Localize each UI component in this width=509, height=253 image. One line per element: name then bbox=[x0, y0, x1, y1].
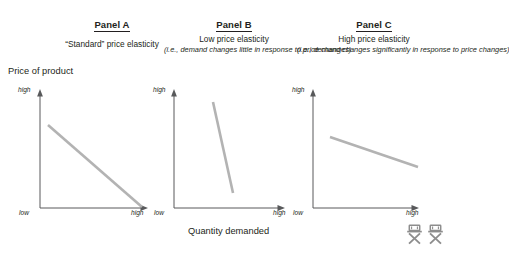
panel-c-x-low-tick: low bbox=[293, 209, 303, 216]
panel-b-x-low-tick: low bbox=[154, 209, 164, 216]
panel-a-x-axis bbox=[40, 205, 148, 211]
panel-c-subtitle-text: High price elasticity bbox=[338, 34, 409, 44]
panel-a-y-axis bbox=[37, 89, 43, 208]
panel-b-svg bbox=[164, 84, 300, 214]
panel-b-y-axis bbox=[171, 89, 177, 208]
panel-a-title: Panel A bbox=[52, 19, 172, 30]
bowtie-glyph-left-icon bbox=[405, 224, 424, 246]
panel-c-x-axis bbox=[313, 205, 419, 211]
panel-c-title-text: Panel C bbox=[356, 19, 392, 32]
panel-a-x-low-tick: low bbox=[19, 209, 29, 216]
bowtie-glyph-right-icon bbox=[426, 224, 445, 246]
panel-c-demand-curve bbox=[330, 137, 418, 167]
panel-b-plot bbox=[164, 84, 300, 214]
panel-a-y-high-tick: high bbox=[18, 86, 30, 93]
panel-b-subtitle-text: Low price elasticity bbox=[199, 34, 269, 44]
panel-a-demand-curve bbox=[48, 125, 142, 207]
panel-c-svg bbox=[303, 84, 439, 214]
panel-b-subtitle: Low price elasticity (i.e., demand chang… bbox=[164, 35, 304, 54]
panel-c-title: Panel C bbox=[318, 19, 430, 30]
panel-a-title-text: Panel A bbox=[94, 19, 129, 32]
corner-decoration-icons bbox=[405, 224, 445, 246]
panel-c-plot bbox=[303, 84, 439, 214]
panel-b-title: Panel B bbox=[179, 19, 289, 30]
panel-b-demand-curve bbox=[213, 102, 233, 193]
panel-a-plot bbox=[30, 84, 160, 214]
panel-c-subtitle-italic: (i.e., demand changes significantly in r… bbox=[297, 45, 451, 54]
x-axis-title: Quantity demanded bbox=[188, 226, 269, 236]
panel-b-subtitle-italic: (i.e., demand changes little in response… bbox=[164, 45, 304, 54]
panel-b-x-axis bbox=[174, 205, 285, 211]
y-axis-title: Price of product bbox=[8, 66, 73, 76]
panel-b-title-text: Panel B bbox=[216, 19, 252, 32]
panel-c-y-axis bbox=[310, 89, 316, 208]
panel-c-subtitle: High price elasticity (i.e., demand chan… bbox=[297, 35, 451, 54]
panel-a-subtitle-text: “Standard” price elasticity bbox=[65, 39, 159, 49]
panel-a-svg bbox=[30, 84, 160, 214]
